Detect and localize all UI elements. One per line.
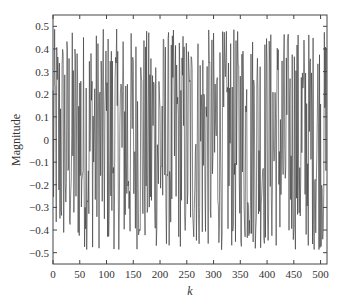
x-axis-label: k — [187, 284, 193, 298]
x-tick-label: 100 — [98, 268, 115, 280]
x-tick-label: 250 — [179, 268, 196, 280]
x-tick-label: 400 — [259, 268, 276, 280]
y-tick-label: −0.5 — [29, 247, 49, 259]
x-tick-label: 0 — [50, 268, 56, 280]
y-tick-label: 0.1 — [35, 111, 49, 123]
x-tick-label: 500 — [312, 268, 329, 280]
y-tick-label: 0 — [44, 134, 50, 146]
x-tick-label: 50 — [74, 268, 86, 280]
y-tick-label: −0.4 — [29, 224, 49, 236]
y-tick-label: −0.1 — [29, 156, 49, 168]
x-tick-label: 300 — [205, 268, 222, 280]
x-tick-label: 150 — [125, 268, 142, 280]
y-tick-label: −0.3 — [29, 201, 49, 213]
y-axis-label: Magnitude — [9, 114, 23, 166]
y-tick-label: 0.3 — [35, 66, 49, 78]
x-tick-label: 200 — [152, 268, 169, 280]
chart: 050100150200250300350400450500 −0.5−0.4−… — [0, 0, 343, 305]
signal-line — [53, 29, 326, 250]
y-tick-label: 0.5 — [35, 20, 49, 32]
y-tick-label: −0.2 — [29, 179, 49, 191]
y-tick-label: 0.2 — [35, 88, 49, 100]
signal-polyline — [53, 29, 326, 250]
x-tick-label: 350 — [232, 268, 249, 280]
x-tick-label: 450 — [286, 268, 303, 280]
y-tick-label: 0.4 — [35, 43, 49, 55]
